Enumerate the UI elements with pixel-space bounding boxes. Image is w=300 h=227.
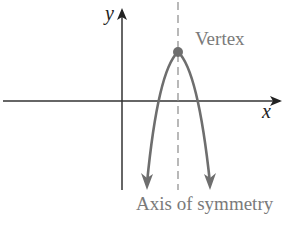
vertex-point: [173, 47, 183, 57]
axis-of-symmetry-label: Axis of symmetry: [136, 193, 273, 215]
vertex-label: Vertex: [195, 28, 245, 50]
parabola-right-branch: [178, 52, 210, 183]
y-axis-label: y: [105, 2, 114, 25]
x-axis-label: x: [262, 100, 271, 123]
parabola-left-branch: [147, 52, 178, 183]
